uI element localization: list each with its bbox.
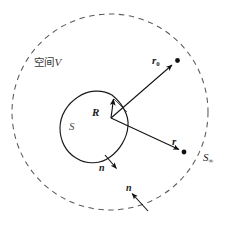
label-space-v: 空间V	[34, 57, 62, 68]
label-vector-R: R	[92, 107, 99, 118]
label-outer-surface-s-infinity: S∞	[203, 152, 213, 165]
normal-outer-arrow	[132, 194, 148, 212]
outer-sphere-boundary	[12, 14, 208, 210]
label-normal-inner-n: n	[99, 163, 105, 173]
vector-R-line	[111, 99, 114, 118]
field-point-dot	[182, 150, 187, 155]
label-inner-surface-S: S	[69, 121, 75, 132]
label-space-v-prefix: 空间	[34, 56, 55, 68]
label-space-v-var: V	[55, 56, 62, 68]
label-vector-r: r	[172, 136, 176, 147]
physics-diagram-figure: 空间V R S r0 r S∞ n n	[0, 0, 226, 229]
label-r0-subscript: 0	[156, 60, 159, 67]
label-normal-outer-n: n	[126, 183, 132, 193]
vector-r0-line	[111, 65, 172, 118]
source-point-dot	[175, 58, 180, 63]
label-sinf-subscript: ∞	[209, 157, 214, 164]
label-vector-r0: r0	[152, 55, 160, 68]
diagram-canvas	[0, 0, 226, 229]
